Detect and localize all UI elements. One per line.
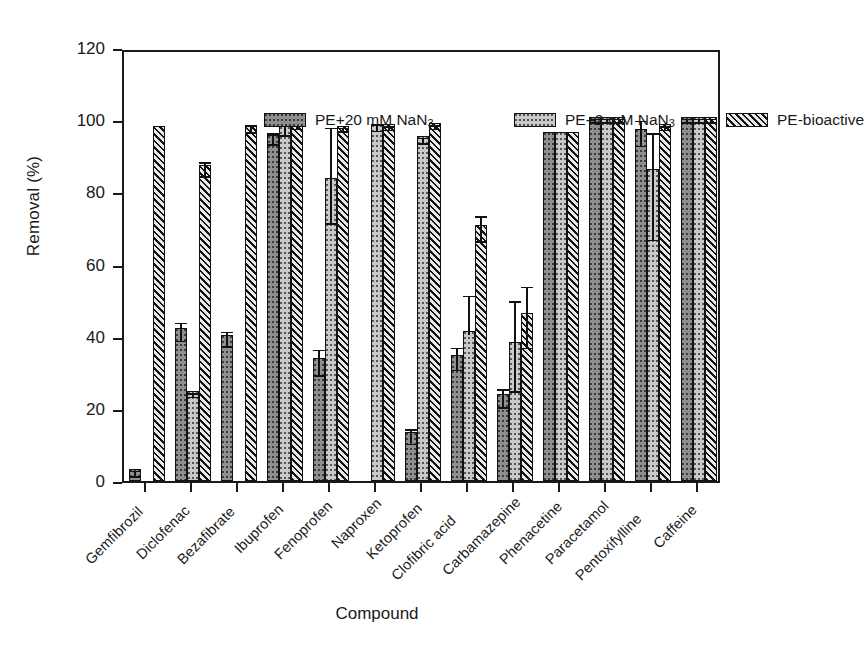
error-bar-stem [272, 133, 274, 144]
legend-label-subscript: 3 [669, 117, 675, 129]
bar [463, 331, 474, 481]
x-tick-mark [512, 483, 514, 492]
error-bar-stem [652, 133, 654, 239]
error-bar-cap [647, 133, 658, 135]
x-tick-mark [650, 483, 652, 492]
error-bar-cap [199, 176, 210, 178]
error-bar-stem [514, 301, 516, 391]
bar [417, 136, 428, 481]
error-bar-cap [175, 341, 186, 343]
bar [601, 117, 612, 481]
x-tick-label: Carbamazepine [439, 494, 524, 579]
y-tick-label: 20 [45, 400, 105, 420]
x-tick-label: Caffeine [650, 501, 700, 551]
error-bar-stem [468, 296, 470, 336]
x-tick-mark [558, 483, 560, 492]
error-bar-stem [410, 429, 412, 443]
legend-label: PE+2 mM NaN3 [565, 111, 675, 129]
x-tick-mark [420, 483, 422, 492]
legend-label: PE+20 mM NaN3 [315, 111, 434, 129]
bar [267, 135, 278, 481]
error-bar-cap [417, 143, 428, 145]
error-bar-stem [480, 216, 482, 241]
bar [567, 132, 578, 481]
bar [613, 117, 624, 481]
y-tick-mark [113, 338, 122, 340]
error-bar-cap [175, 323, 186, 325]
legend-item[interactable]: PE-bioactive [726, 108, 864, 132]
y-tick-mark [113, 482, 122, 484]
error-bar-cap [221, 332, 232, 334]
legend-label: PE-bioactive [777, 111, 864, 129]
error-bar-cap [463, 296, 474, 298]
error-bar-cap [267, 144, 278, 146]
bar [383, 124, 394, 481]
error-bar-stem [318, 350, 320, 375]
x-tick-mark [282, 483, 284, 492]
bar [187, 391, 198, 481]
legend-item[interactable]: PE+20 mM NaN3 [264, 108, 434, 132]
x-tick-mark [190, 483, 192, 492]
plot-area: PE+20 mM NaN3PE+2 mM NaN3PE-bioactive [122, 50, 720, 483]
legend-item[interactable]: PE+2 mM NaN3 [514, 108, 675, 132]
error-bar-stem [526, 287, 528, 348]
error-bar-stem [502, 389, 504, 407]
error-bar-stem [204, 162, 206, 176]
error-bar-cap [313, 350, 324, 352]
error-bar-cap [245, 125, 256, 127]
y-tick-label: 60 [45, 256, 105, 276]
error-bar-cap [417, 138, 428, 140]
y-tick-mark [113, 193, 122, 195]
error-bar-cap [635, 146, 646, 148]
legend-swatch-icon [726, 113, 768, 127]
bar [681, 117, 692, 481]
x-tick-mark [696, 483, 698, 492]
bar [451, 355, 462, 481]
error-bar-stem [330, 128, 332, 224]
bar [175, 328, 186, 481]
error-bar-cap [187, 393, 198, 395]
x-tick-mark [466, 483, 468, 492]
y-tick-label: 40 [45, 328, 105, 348]
y-tick-label: 100 [45, 111, 105, 131]
bar [429, 123, 440, 481]
error-bar-cap [199, 162, 210, 164]
y-tick-mark [113, 410, 122, 412]
error-bar-cap [451, 348, 462, 350]
bar [245, 125, 256, 481]
bar [589, 117, 600, 481]
chart-legend: PE+20 mM NaN3PE+2 mM NaN3PE-bioactive [264, 108, 836, 132]
x-tick-mark [236, 483, 238, 492]
error-bar-stem [456, 348, 458, 370]
x-tick-mark [144, 483, 146, 492]
error-bar-cap [129, 471, 140, 473]
error-bar-cap [451, 370, 462, 372]
bar [693, 117, 704, 481]
y-tick-label: 80 [45, 183, 105, 203]
error-bar-cap [267, 133, 278, 135]
bar [635, 129, 646, 481]
error-bar-cap [313, 375, 324, 377]
bar [291, 123, 302, 481]
error-bar-cap [405, 444, 416, 446]
error-bar-cap [405, 429, 416, 431]
bar [475, 225, 486, 481]
error-bar-cap [521, 348, 532, 350]
error-bar-stem [180, 323, 182, 341]
error-bar-cap [475, 216, 486, 218]
bar [279, 126, 290, 481]
x-tick-label: Gemfibrozil [82, 503, 146, 567]
legend-swatch-icon [264, 113, 306, 127]
error-bar-cap [521, 287, 532, 289]
legend-swatch-icon [514, 113, 556, 127]
bar [659, 124, 670, 481]
y-tick-label: 120 [45, 39, 105, 59]
y-tick-label: 0 [45, 472, 105, 492]
x-axis-label: Compound [0, 604, 754, 624]
bar [221, 335, 232, 481]
error-bar-cap [129, 476, 140, 478]
x-tick-mark [604, 483, 606, 492]
bar [543, 132, 554, 481]
error-bar-cap [245, 132, 256, 134]
error-bar-cap [509, 391, 520, 393]
